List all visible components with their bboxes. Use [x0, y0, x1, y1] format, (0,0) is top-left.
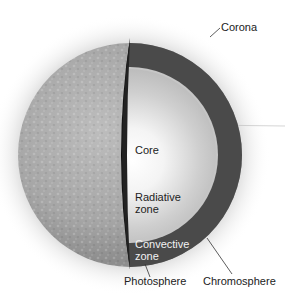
photosphere-label: Photosphere — [124, 275, 186, 287]
radiative-zone-label-line2: zone — [135, 203, 159, 215]
chromosphere-label: Chromosphere — [203, 275, 276, 287]
core-label: Core — [135, 144, 159, 156]
convective-zone-label-line1: Convective — [135, 238, 189, 250]
corona-label: Corona — [221, 21, 257, 33]
radiative-zone-label-line1: Radiative — [135, 191, 181, 203]
corona-leader-line — [210, 28, 220, 37]
convective-zone-label-line2: zone — [135, 250, 159, 262]
